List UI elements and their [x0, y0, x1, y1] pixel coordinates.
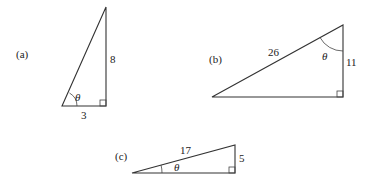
- theta-a: θ: [75, 91, 81, 103]
- triangle-c: (c) 17 5 θ: [115, 144, 245, 173]
- side-horizontal-a: 3: [81, 109, 87, 121]
- triangle-b: (b) 26 11 θ: [209, 25, 357, 97]
- angle-arc-c: [161, 165, 162, 173]
- angle-arc-b: [320, 38, 343, 52]
- theta-c: θ: [174, 161, 180, 173]
- right-angle-marker-a: [100, 100, 106, 106]
- triangle-diagram: (a) 8 3 θ (b) 26 11 θ (c) 17 5 θ: [0, 0, 367, 189]
- triangle-a: (a) 8 3 θ: [16, 7, 116, 121]
- hypotenuse-b: 26: [268, 46, 280, 58]
- triangle-a-shape: [62, 7, 106, 106]
- side-vertical-a: 8: [110, 53, 116, 65]
- right-angle-marker-b: [337, 91, 343, 97]
- right-angle-marker-c: [229, 167, 235, 173]
- label-a: (a): [16, 48, 29, 61]
- side-vertical-b: 11: [346, 56, 357, 68]
- label-b: (b): [209, 53, 222, 66]
- hypotenuse-c: 17: [180, 144, 192, 156]
- side-vertical-c: 5: [239, 152, 245, 164]
- label-c: (c): [115, 150, 128, 163]
- theta-b: θ: [322, 50, 328, 62]
